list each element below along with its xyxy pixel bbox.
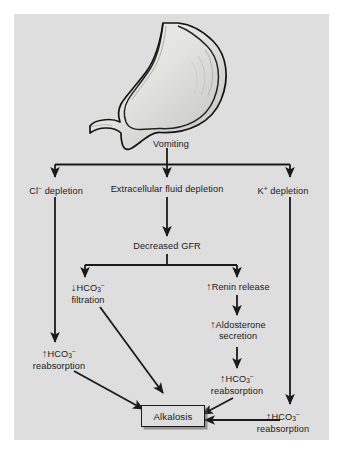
alkalosis-node: Alkalosis — [141, 405, 205, 427]
k-depletion-label: K+ depletion — [257, 186, 308, 196]
node-hco3-reabsorption-left: ↑HCO3− reabsorption — [16, 347, 102, 372]
diagram-graphics — [0, 0, 342, 453]
arrow-gfr-split — [85, 254, 237, 277]
cl-depletion-label: Cl− depletion — [29, 186, 83, 196]
filtration-label: filtration — [71, 295, 104, 305]
node-vomiting: Vomiting — [0, 139, 342, 150]
alkalosis-label: Alkalosis — [154, 411, 193, 422]
reabsorption-label: reabsorption — [211, 386, 263, 396]
reabsorption-label: reabsorption — [257, 424, 309, 434]
node-hco3-filtration: ↓HCO3− filtration — [50, 281, 126, 306]
node-decreased-gfr: Decreased GFR — [107, 241, 227, 252]
reabsorption-label: reabsorption — [33, 361, 85, 371]
node-renin-release: ↑Renin release — [188, 281, 288, 293]
node-hco3-reabsorption-right: ↑HCO3− reabsorption — [240, 410, 326, 435]
decreased-gfr-label: Decreased GFR — [133, 241, 201, 251]
aldosterone-label: Aldosterone — [216, 320, 266, 330]
vomiting-label: Vomiting — [153, 139, 189, 149]
arrow-vomiting-to-bus — [55, 148, 290, 177]
secretion-label: secretion — [219, 331, 257, 341]
ecf-depletion-label: Extracellular fluid depletion — [111, 184, 224, 194]
node-k-depletion: K+ depletion — [243, 184, 323, 196]
node-hco3-reabsorption-middle: ↑HCO3− reabsorption — [194, 372, 280, 397]
node-aldosterone-secretion: ↑Aldosterone secretion — [186, 319, 290, 341]
arrow-middle-reabsorption-to-alkalosis — [203, 398, 233, 414]
renin-release-label: Renin release — [212, 282, 270, 292]
figure-root: Vomiting Cl− depletion Extracellular flu… — [0, 0, 342, 453]
arrow-left-reabsorption-to-alkalosis — [74, 371, 143, 409]
arrow-filtration-to-alkalosis — [100, 307, 163, 393]
stomach-icon — [90, 23, 226, 149]
node-ecf-depletion: Extracellular fluid depletion — [97, 184, 237, 195]
node-cl-depletion: Cl− depletion — [14, 184, 98, 196]
